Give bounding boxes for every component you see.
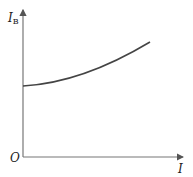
x-axis-label: I: [178, 163, 183, 175]
y-axis-label: IB: [8, 12, 19, 26]
plot-svg: [0, 0, 193, 177]
ib-vs-i-diagram: IB O I: [0, 0, 193, 177]
y-axis-label-subscript: B: [13, 17, 19, 26]
origin-label: O: [10, 152, 20, 164]
ib-curve: [23, 42, 150, 86]
